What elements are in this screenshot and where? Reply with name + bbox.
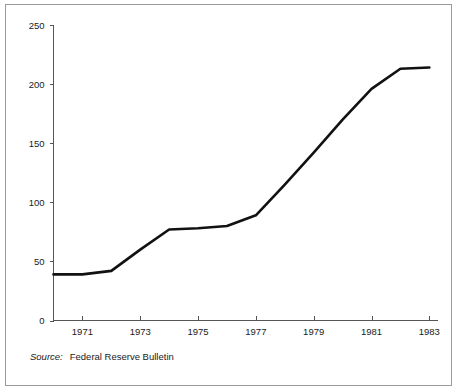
y-tick-label: 0 — [39, 315, 44, 326]
x-tick-label: 1977 — [245, 326, 266, 337]
y-tick-label: 100 — [29, 197, 45, 208]
x-tick-label: 1973 — [130, 326, 151, 337]
source-note: Source:Federal Reserve Bulletin — [30, 351, 174, 362]
data-series-line — [54, 68, 430, 275]
x-tick-label: 1979 — [303, 326, 324, 337]
line-chart-plot: 050100150200250 197119731975197719791981… — [0, 0, 457, 391]
x-axis-ticks: 1971197319751977197919811983 — [72, 316, 440, 337]
y-tick-label: 150 — [29, 138, 45, 149]
source-text: Federal Reserve Bulletin — [70, 351, 174, 362]
x-tick-label: 1983 — [419, 326, 440, 337]
y-tick-label: 250 — [29, 20, 45, 31]
x-tick-label: 1971 — [72, 326, 93, 337]
x-tick-label: 1981 — [361, 326, 382, 337]
source-label: Source: — [30, 351, 63, 362]
chart-axes — [54, 25, 439, 321]
x-tick-label: 1975 — [187, 326, 208, 337]
y-axis-ticks: 050100150200250 — [29, 20, 54, 327]
chart-figure: 050100150200250 197119731975197719791981… — [0, 0, 457, 391]
y-tick-label: 200 — [29, 79, 45, 90]
y-tick-label: 50 — [34, 256, 45, 267]
